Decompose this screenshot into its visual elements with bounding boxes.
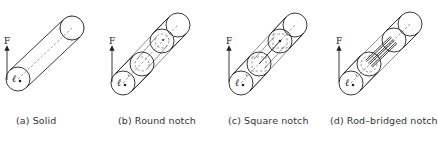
cylinder-edge [10, 19, 64, 70]
front-segment-edge [250, 72, 268, 91]
panel-rod-bridged-notch: Fℓ [336, 12, 422, 95]
caption-square-notch: (c) Square notch [228, 115, 309, 126]
length-label: ℓ [117, 77, 121, 88]
face-tick [128, 74, 129, 77]
center-dot [279, 40, 282, 43]
length-label: ℓ [12, 73, 16, 84]
panel-round-notch: Fℓ [109, 13, 190, 95]
force-label: F [4, 36, 10, 46]
center-dot [352, 84, 355, 87]
center-dot [242, 84, 245, 87]
center-dot [124, 84, 127, 87]
notch-inner-circle [135, 57, 149, 71]
notch-ligament-edge [264, 46, 285, 69]
axis-line [18, 28, 72, 79]
panel-solid-cylinder: Fℓ [4, 16, 84, 91]
face-tick [246, 74, 247, 77]
notch-start-face [130, 52, 154, 76]
caption-round-notch: (b) Round notch [118, 115, 196, 126]
panel-square-notch: Fℓ [226, 13, 307, 95]
force-label: F [336, 36, 342, 46]
length-label: ℓ [235, 77, 239, 88]
notch-start-face [357, 52, 381, 76]
caption-rod-bridged-notch: (d) Rod–bridged notch [330, 115, 438, 126]
front-segment-edge [360, 72, 378, 91]
cylinder-edge [26, 37, 80, 88]
notch-ligament-edge [254, 36, 275, 59]
rod-ring [361, 56, 377, 72]
front-segment-edge [131, 72, 150, 91]
length-label: ℓ [345, 77, 349, 88]
notch-end-face [150, 29, 174, 53]
force-label: F [226, 36, 232, 46]
front-segment-edge [342, 56, 360, 75]
notch-inner-circle [155, 34, 169, 48]
force-label: F [109, 36, 115, 46]
center-dot [19, 80, 22, 83]
center-dot [162, 39, 164, 41]
front-segment-edge [232, 56, 250, 75]
face-tick [356, 74, 357, 77]
front-segment-edge [115, 56, 134, 75]
caption-solid: (a) Solid [16, 115, 56, 126]
